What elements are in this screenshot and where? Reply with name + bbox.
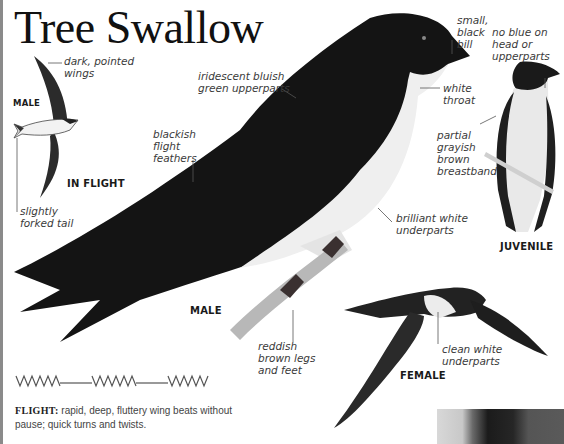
female-in-flight-illustration xyxy=(334,288,548,428)
label-in-flight: IN FLIGHT xyxy=(67,178,125,189)
annotation-iridescent-upperparts: iridescent bluish green upperparts xyxy=(198,70,290,94)
label-male-flight: MALE xyxy=(13,98,40,108)
annotation-slightly-forked-tail: slightly forked tail xyxy=(20,205,73,229)
annotation-clean-white-underparts: clean white underparts xyxy=(442,343,502,367)
annotation-white-throat: white throat xyxy=(443,82,475,106)
flight-keyword: FLIGHT: xyxy=(15,405,59,416)
annotation-small-black-bill: small, black bill xyxy=(457,14,488,50)
nest-photo-thumbnail xyxy=(437,409,564,444)
label-male: MALE xyxy=(190,305,222,316)
zigzag-flight-pattern-icon xyxy=(16,376,208,386)
label-female: FEMALE xyxy=(400,370,446,381)
flight-description: FLIGHT: rapid, deep, fluttery wing beats… xyxy=(15,404,255,432)
label-juvenile: JUVENILE xyxy=(500,241,553,252)
annotation-reddish-legs: reddish brown legs and feet xyxy=(258,340,316,376)
annotation-no-blue: no blue on head or upperparts xyxy=(492,26,550,62)
annotation-partial-breastband: partial grayish brown breastband xyxy=(437,129,497,177)
annotation-brilliant-white-underparts: brilliant white underparts xyxy=(396,212,468,236)
annotation-dark-pointed-wings: dark, pointed wings xyxy=(64,55,134,79)
annotation-blackish-flight-feathers: blackish flight feathers xyxy=(153,128,197,164)
